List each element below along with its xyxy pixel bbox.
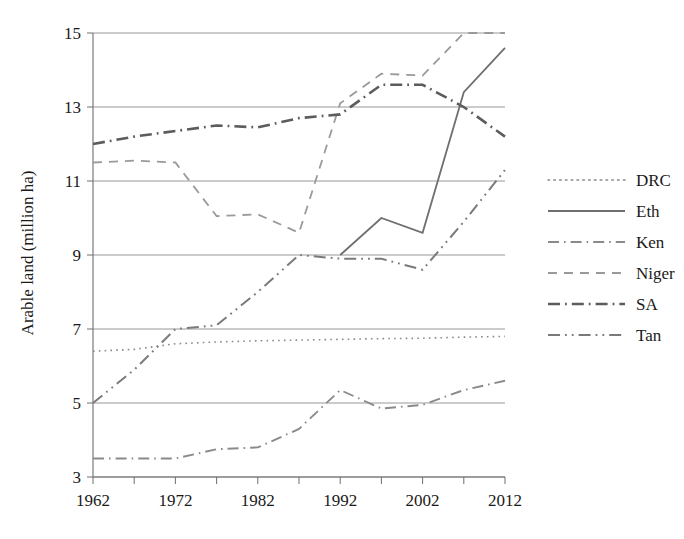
legend-label-tan: Tan bbox=[636, 326, 662, 345]
y-tick-label-9: 9 bbox=[73, 246, 82, 265]
series-line-tan bbox=[93, 170, 505, 403]
legend-label-drc: DRC bbox=[636, 171, 671, 190]
x-tick-label-1972: 1972 bbox=[158, 491, 192, 510]
y-tick-label-11: 11 bbox=[65, 172, 81, 191]
x-axis-tickmarks bbox=[93, 477, 505, 484]
y-tick-label-5: 5 bbox=[73, 394, 82, 413]
legend-label-niger: Niger bbox=[636, 264, 675, 283]
y-axis-tickmarks bbox=[87, 33, 93, 477]
series-line-sa bbox=[93, 85, 505, 144]
legend-label-ken: Ken bbox=[636, 233, 665, 252]
data-series-group bbox=[93, 33, 505, 459]
series-line-drc bbox=[93, 336, 505, 351]
y-tick-label-15: 15 bbox=[64, 24, 81, 43]
legend-label-eth: Eth bbox=[636, 202, 660, 221]
gridlines bbox=[93, 33, 505, 477]
y-axis-title: Arable land (million ha) bbox=[18, 171, 37, 336]
y-tick-label-3: 3 bbox=[73, 468, 82, 487]
chart-container: 3579111315 196219721982199220022012 Arab… bbox=[0, 0, 684, 539]
y-tick-label-13: 13 bbox=[64, 98, 81, 117]
legend-label-sa: SA bbox=[636, 295, 658, 314]
legend: DRCEthKenNigerSATan bbox=[548, 171, 675, 345]
x-tick-label-2002: 2002 bbox=[406, 491, 440, 510]
x-tick-label-1982: 1982 bbox=[241, 491, 275, 510]
line-chart: 3579111315 196219721982199220022012 Arab… bbox=[0, 0, 684, 539]
x-tick-label-2012: 2012 bbox=[488, 491, 522, 510]
x-tick-label-1962: 1962 bbox=[76, 491, 110, 510]
series-line-eth bbox=[340, 48, 505, 255]
series-line-ken bbox=[93, 381, 505, 459]
y-axis-tick-labels: 3579111315 bbox=[64, 24, 82, 487]
x-axis-tick-labels: 196219721982199220022012 bbox=[76, 491, 522, 510]
series-line-niger bbox=[93, 33, 505, 233]
x-tick-label-1992: 1992 bbox=[323, 491, 357, 510]
y-tick-label-7: 7 bbox=[73, 320, 82, 339]
